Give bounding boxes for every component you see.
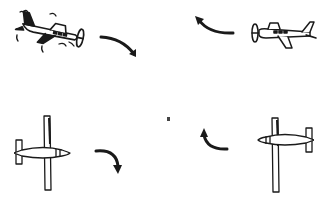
curved-arrow-up-left-icon [193, 14, 235, 38]
plane-side-level-icon [250, 20, 318, 56]
plane-top-view-left-icon [256, 116, 314, 194]
plane-top-view-right-icon [14, 114, 72, 192]
curved-arrow-down-icon [94, 146, 126, 176]
stray-mark [167, 117, 170, 121]
curved-arrow-down-right-icon [98, 32, 140, 60]
curved-arrow-up-icon [197, 127, 229, 153]
plane-side-turbulent-icon [14, 8, 90, 54]
